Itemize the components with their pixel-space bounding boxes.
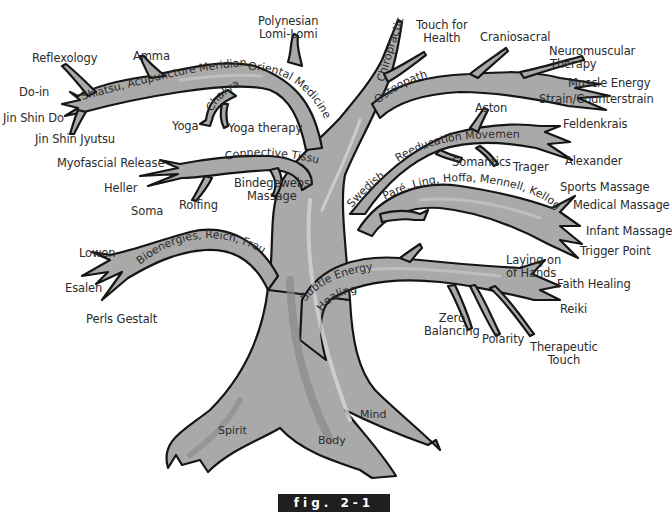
leaf-reiki: Reiki xyxy=(560,303,587,316)
leaf-line: Lomi-Lomi xyxy=(258,28,318,41)
leaf-jin-shin-jyutsu: Jin Shin Jyutsu xyxy=(35,133,115,146)
leaf-laying-on-of-hands: Laying on of Hands xyxy=(506,254,561,280)
leaf-yoga: Yoga xyxy=(172,120,198,133)
leaf-faith-healing: Faith Healing xyxy=(557,278,631,291)
leaf-neuromuscular-therapy: Neuromuscular Therapy xyxy=(549,45,635,71)
leaf-rolfing: Rolfing xyxy=(179,199,218,212)
leaf-aston: Aston xyxy=(475,102,507,115)
leaf-esalen: Esalen xyxy=(65,282,102,295)
leaf-touch-for-health: Touch for Health xyxy=(416,19,468,45)
leaf-therapeutic-touch: Therapeutic Touch xyxy=(530,341,598,367)
leaf-line: Balancing xyxy=(424,325,480,338)
leaf-reflexology: Reflexology xyxy=(32,52,97,65)
leaf-myofascial-release: Myofascial Release xyxy=(57,157,164,170)
root-label-mind: Mind xyxy=(360,408,387,421)
leaf-heller: Heller xyxy=(104,182,137,195)
leaf-strain-counterstrain: Strain/Counterstrain xyxy=(539,93,654,106)
leaf-line: Massage xyxy=(234,190,310,203)
leaf-somantics: Somantics xyxy=(452,156,511,169)
leaf-alexander: Alexander xyxy=(565,155,622,168)
leaf-yoga-therapy: Yoga therapy xyxy=(228,122,302,135)
leaf-lowen: Lowen xyxy=(79,247,116,260)
leaf-sports-massage: Sports Massage xyxy=(560,181,650,194)
leaf-trager: Trager xyxy=(513,161,549,174)
leaf-craniosacral: Craniosacral xyxy=(480,31,550,44)
leaf-jin-shin-do: Jin Shin Do xyxy=(3,112,64,125)
leaf-feldenkrais: Feldenkrais xyxy=(563,118,627,131)
leaf-zero-balancing: Zero Balancing xyxy=(424,312,480,338)
leaf-line: Health xyxy=(416,32,468,45)
leaf-infant-massage: Infant Massage xyxy=(586,225,672,238)
leaf-do-in: Do-in xyxy=(19,86,49,99)
leaf-line: Touch xyxy=(530,354,598,367)
leaf-polarity: Polarity xyxy=(482,333,524,346)
figure-caption: fig. 2-1 xyxy=(278,494,390,512)
leaf-line: Therapy xyxy=(549,58,635,71)
leaf-amma: Amma xyxy=(133,50,170,63)
leaf-polynesian-lomi-lomi: Polynesian Lomi-Lomi xyxy=(258,15,318,41)
root-label-spirit: Spirit xyxy=(218,424,248,437)
leaf-muscle-energy: Muscle Energy xyxy=(568,77,650,90)
leaf-bindegewebs-massage: Bindegewebs Massage xyxy=(234,177,310,203)
leaf-line: of Hands xyxy=(506,267,561,280)
leaf-soma: Soma xyxy=(131,205,163,218)
tree-trunk-and-branches xyxy=(62,20,610,478)
leaf-medical-massage: Medical Massage xyxy=(573,199,670,212)
leaf-perls-gestalt: Perls Gestalt xyxy=(86,313,157,326)
root-label-body: Body xyxy=(318,434,346,447)
leaf-trigger-point: Trigger Point xyxy=(580,245,651,258)
